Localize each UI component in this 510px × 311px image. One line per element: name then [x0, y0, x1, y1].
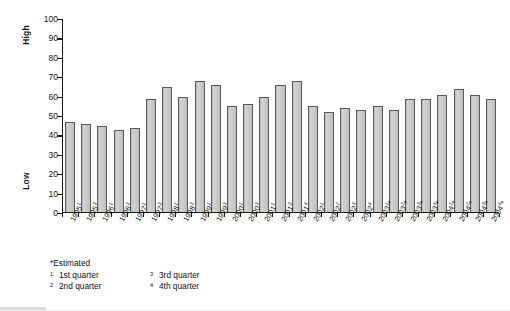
y-axis-tick-label: 50 — [34, 112, 58, 120]
bar — [275, 85, 285, 213]
bar — [340, 108, 350, 213]
bar — [146, 99, 156, 213]
bar — [421, 99, 431, 213]
footnote-item: 2 2nd quarter — [50, 281, 150, 292]
bar — [178, 97, 188, 213]
bar-chart-figure: High Low 0102030405060708090100 19951199… — [0, 0, 510, 311]
footnote-label: 4th quarter — [159, 281, 199, 292]
bar — [324, 112, 334, 213]
bar — [389, 110, 399, 213]
y-axis-tick-label: 60 — [34, 93, 58, 101]
footnote-item: 4 4th quarter — [150, 281, 199, 292]
footnotes: *Estimated 1 1st quarter 3 3rd quarter 2… — [50, 258, 200, 292]
bar — [65, 122, 75, 213]
y-axis-tick-label: 80 — [34, 54, 58, 62]
bar — [81, 124, 91, 213]
bar — [162, 87, 172, 213]
bar — [405, 99, 415, 213]
bar — [308, 106, 318, 213]
footnote-marker: 1 — [50, 270, 59, 278]
footnote-label: 1st quarter — [59, 270, 99, 281]
footnote-label: 3rd quarter — [159, 270, 200, 281]
y-axis-tick-label: 100 — [34, 15, 58, 23]
y-axis-tick-labels: 0102030405060708090100 — [34, 19, 58, 213]
y-axis-high-label: High — [21, 22, 31, 48]
bar — [195, 81, 205, 213]
footnote-label: 2nd quarter — [59, 281, 101, 292]
y-axis-tick-label: 20 — [34, 170, 58, 178]
footnote-marker: 4 — [150, 281, 159, 289]
bar — [243, 104, 253, 213]
bar — [227, 106, 237, 213]
footnote-estimated: *Estimated — [50, 258, 200, 269]
footnote-row: 1 1st quarter 3 3rd quarter — [50, 270, 200, 281]
bar — [437, 95, 447, 213]
y-axis-tick-label: 70 — [34, 73, 58, 81]
bar — [97, 126, 107, 213]
plot-area — [62, 19, 499, 213]
footnote-marker: 3 — [150, 270, 159, 278]
footnote-row: 2 2nd quarter 4 4th quarter — [50, 281, 200, 292]
footnote-item: 1 1st quarter — [50, 270, 150, 281]
bar — [356, 110, 366, 213]
bar — [373, 106, 383, 213]
y-axis-tick-label: 10 — [34, 190, 58, 198]
bar — [211, 85, 221, 213]
footnote-item: 3 3rd quarter — [150, 270, 200, 281]
bar — [292, 81, 302, 213]
y-axis-tick-label: 30 — [34, 151, 58, 159]
y-axis-tick-label: 0 — [34, 209, 58, 217]
bar — [454, 89, 464, 213]
y-axis-low-label: Low — [21, 168, 31, 194]
bar — [486, 99, 496, 213]
y-axis-tick-label: 40 — [34, 131, 58, 139]
x-axis-tick-mark — [62, 213, 63, 217]
bar — [470, 95, 480, 213]
bar — [130, 128, 140, 213]
bar — [259, 97, 269, 213]
footnote-marker: 2 — [50, 281, 59, 289]
y-axis-tick-label: 90 — [34, 34, 58, 42]
bar — [114, 130, 124, 213]
